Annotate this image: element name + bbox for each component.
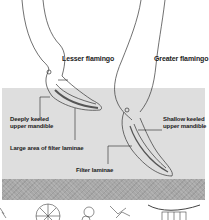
plankton-illustrations	[0, 204, 200, 220]
greater-flamingo-title: Greater flamingo	[154, 56, 208, 63]
shallow-keeled-label: Shallow keeled upper mandible	[163, 116, 206, 129]
greater-flamingo-head	[115, 0, 173, 176]
flamingo-bill-diagram: Lesser flamingo Greater flamingo Deeply …	[0, 0, 209, 220]
flamingo-illustration	[0, 0, 209, 220]
filter-laminae-label: Filter laminae	[76, 167, 113, 174]
deeply-keeled-label: Deeply keeled upper mandible	[10, 116, 53, 129]
lesser-flamingo-title: Lesser flamingo	[62, 56, 114, 63]
large-area-label: Large area of filter laminae	[10, 145, 84, 152]
